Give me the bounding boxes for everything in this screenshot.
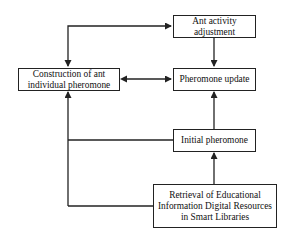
node-retrieval-of-educational-information: Retrieval of Educational Information Dig…	[153, 184, 277, 228]
node-construction-of-ant-individual-pheromone: Construction of ant individual pheromone	[18, 68, 120, 91]
node-initial-pheromone: Initial pheromone	[173, 129, 256, 152]
node-label-line: individual pheromone	[28, 80, 111, 91]
node-ant-activity-adjustment: Ant activity adjustment	[173, 15, 256, 38]
node-label-line: Retrieval of Educational	[158, 190, 272, 201]
node-label-line: adjustment	[192, 27, 237, 38]
edge-construction-pheromone-update	[120, 76, 171, 83]
node-label-line: Initial pheromone	[181, 135, 248, 146]
node-pheromone-update: Pheromone update	[173, 68, 256, 91]
node-label-line: Construction of ant	[28, 69, 111, 80]
node-label-line: Ant activity	[192, 16, 237, 27]
node-label-line: Information Digital Resources	[158, 201, 272, 212]
edge-construction-ant-activity	[65, 26, 172, 67]
node-label-line: Pheromone update	[179, 74, 249, 85]
node-label-line: in Smart Libraries	[158, 212, 272, 223]
